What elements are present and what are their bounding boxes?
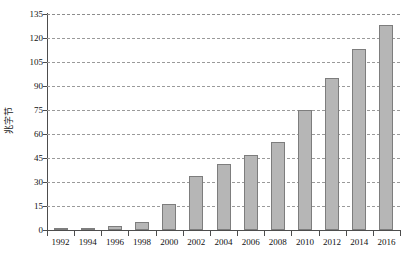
- bars-group: [47, 14, 400, 230]
- y-axis-tickmark: [43, 158, 47, 159]
- x-axis-tickmark: [291, 231, 292, 236]
- y-axis-tickmark: [43, 182, 47, 183]
- x-axis-tickmark: [237, 231, 238, 236]
- x-axis-tick-label: 2006: [242, 237, 260, 247]
- bar: [379, 25, 393, 230]
- x-axis-tick-label: 1992: [52, 237, 70, 247]
- x-axis-tickmark: [128, 231, 129, 236]
- y-axis-title: 兆字节: [0, 0, 16, 240]
- x-axis-tickmark: [346, 231, 347, 236]
- x-axis-tickmark: [373, 231, 374, 236]
- x-axis-tick-label: 2000: [160, 237, 178, 247]
- y-axis-tickmark: [43, 206, 47, 207]
- y-axis-tick-labels: 0153045607590105120135: [16, 0, 47, 266]
- x-axis-tick-label: 2002: [187, 237, 205, 247]
- x-axis-tickmark: [400, 231, 401, 236]
- y-axis-tick-label: 60: [34, 129, 43, 139]
- y-axis-tick-label: 45: [34, 153, 43, 163]
- x-axis-tick-label: 2004: [215, 237, 233, 247]
- x-axis-tick-label: 2008: [269, 237, 287, 247]
- y-axis-tickmark: [43, 134, 47, 135]
- y-axis-tick-label: 15: [34, 201, 43, 211]
- bar: [352, 49, 366, 230]
- bar: [135, 222, 149, 230]
- x-axis-tickmark: [264, 231, 265, 236]
- x-axis-tick-labels: 1992199419961998200020022004200620082010…: [47, 237, 400, 253]
- x-axis-tick-label: 2016: [377, 237, 395, 247]
- bar-chart: 兆字节 0153045607590105120135 1992199419961…: [0, 0, 408, 266]
- x-axis-tick-label: 2010: [296, 237, 314, 247]
- y-axis-tickmark: [43, 62, 47, 63]
- y-axis-tickmark: [43, 86, 47, 87]
- bar: [271, 142, 285, 230]
- y-axis-tick-label: 75: [34, 105, 43, 115]
- x-axis-tickmark: [319, 231, 320, 236]
- x-axis-tickmark: [101, 231, 102, 236]
- x-axis-tickmark: [156, 231, 157, 236]
- x-axis-tick-label: 1996: [106, 237, 124, 247]
- bar: [81, 228, 95, 230]
- y-axis-tickmark: [43, 110, 47, 111]
- x-axis-tickmark: [74, 231, 75, 236]
- x-axis-tick-label: 2014: [350, 237, 368, 247]
- y-axis-tickmark: [43, 14, 47, 15]
- x-axis-tick-label: 2012: [323, 237, 341, 247]
- y-axis-tickmark: [43, 38, 47, 39]
- y-axis-tick-label: 90: [34, 81, 43, 91]
- bar: [217, 164, 231, 230]
- x-axis-tick-label: 1994: [79, 237, 97, 247]
- y-axis-tick-label: 135: [30, 9, 44, 19]
- y-axis-tickmark: [43, 230, 47, 231]
- x-axis-tickmark: [183, 231, 184, 236]
- bar: [108, 226, 122, 230]
- bar: [244, 155, 258, 230]
- plot-area: [47, 14, 400, 230]
- bar: [298, 110, 312, 230]
- x-axis-tickmark: [210, 231, 211, 236]
- x-axis-tickmark: [47, 231, 48, 236]
- y-axis-tick-label: 30: [34, 177, 43, 187]
- bar: [162, 204, 176, 230]
- y-axis-tick-label: 120: [30, 33, 44, 43]
- y-axis-title-label: 兆字节: [2, 107, 15, 134]
- y-axis-tick-label: 105: [30, 57, 44, 67]
- bar: [189, 176, 203, 230]
- bar: [325, 78, 339, 230]
- x-axis-tick-label: 1998: [133, 237, 151, 247]
- bar: [54, 228, 68, 230]
